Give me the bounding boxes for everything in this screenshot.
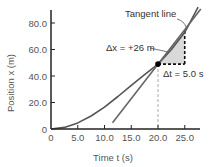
x-tick-label: 25.0	[176, 132, 195, 143]
y-tick-label: 80.0	[29, 18, 48, 29]
y-tick-label: 40.0	[29, 71, 48, 82]
delta-x-label: Δx = +26 m	[106, 42, 155, 53]
delta-t-label: Δt = 5.0 s	[163, 68, 204, 79]
x-axis-title: Time t (s)	[93, 152, 133, 163]
tangent-line-label: Tangent line	[125, 8, 176, 19]
x-tick-label: 20.0	[149, 132, 168, 143]
x-tick-label: 0	[48, 132, 53, 143]
position-time-chart: 05.010.015.020.025.0020.040.060.080.0 Ti…	[0, 0, 219, 167]
tangent-point	[155, 61, 161, 67]
y-tick-label: 20.0	[29, 97, 48, 108]
x-tick-label: 10.0	[95, 132, 114, 143]
tangent-label-leader	[177, 19, 186, 27]
y-axis-title: Position x (m)	[5, 54, 16, 112]
y-tick-label: 60.0	[29, 44, 48, 55]
x-tick-label: 15.0	[122, 132, 141, 143]
x-tick-label: 5.0	[71, 132, 84, 143]
chart-svg: 05.010.015.020.025.0020.040.060.080.0 Ti…	[0, 0, 219, 167]
y-tick-label: 0	[42, 124, 47, 135]
